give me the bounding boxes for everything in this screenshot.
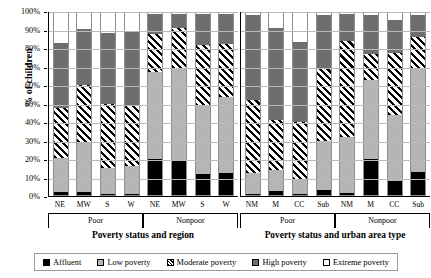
x-axis-tick-label: NM (240, 198, 264, 212)
x-axis-group-label: Poor (240, 214, 335, 228)
bar-segment-s0 (269, 191, 283, 195)
bar-segment-s3 (269, 28, 283, 120)
gridline (49, 105, 238, 106)
y-axis-tick-mark (44, 12, 47, 13)
bar-segment-s0 (219, 173, 233, 195)
gridline (241, 179, 430, 180)
bar-segment-s3 (77, 29, 91, 85)
bar-segment-s0 (317, 190, 331, 195)
x-axis-tick-label: MW (72, 198, 96, 212)
y-axis-tick-label: 10% (6, 175, 40, 183)
y-axis-tick-label: 80% (6, 45, 40, 53)
legend-item[interactable]: Affluent (43, 258, 81, 267)
bar-segment-s3 (196, 14, 210, 45)
gridline (241, 12, 430, 13)
bar-segment-s1 (364, 80, 378, 158)
x-axis-group-label: Nonpoor (335, 214, 430, 228)
y-axis-tick-label: 30% (6, 138, 40, 146)
y-axis-tick-mark (44, 197, 47, 198)
legend-swatch-icon (43, 259, 50, 266)
legend-swatch-icon (323, 259, 330, 266)
legend-item[interactable]: Moderate poverty (167, 258, 237, 267)
y-axis-tick-mark (44, 179, 47, 180)
x-axis-title: Poverty status and region (48, 230, 238, 240)
bar-segment-s2 (411, 37, 425, 69)
x-axis-group-row: PoorNonpoor (48, 213, 238, 228)
bar-segment-s1 (411, 69, 425, 173)
legend-item[interactable]: Low poverty (97, 258, 150, 267)
bar-segment-s0 (411, 172, 425, 195)
bar-segment-s1 (172, 68, 186, 160)
bar-segment-s2 (246, 100, 260, 173)
x-axis-title: Poverty status and urban area type (240, 230, 430, 240)
bar-segment-s0 (388, 181, 402, 195)
bar-segment-s2 (293, 122, 307, 180)
gridline (49, 179, 238, 180)
x-axis-tick-label: S (96, 198, 120, 212)
bar-segment-s2 (54, 108, 68, 158)
bar-segment-s3 (219, 14, 233, 44)
x-axis-tick-label: M (264, 198, 288, 212)
legend-swatch-icon (97, 259, 104, 266)
bar-segment-s4 (54, 13, 68, 43)
y-axis-tick-label: 0% (6, 193, 40, 201)
bar-segment-s1 (77, 142, 91, 192)
legend-item[interactable]: Extreme poverty (323, 258, 389, 267)
legend-label: Low poverty (107, 258, 150, 267)
bar-segment-s0 (101, 194, 115, 195)
gridline (241, 160, 430, 161)
bar-segment-s0 (172, 160, 186, 195)
y-axis-tick-label: 20% (6, 156, 40, 164)
gridline (49, 31, 238, 32)
bar-segment-s0 (246, 194, 260, 195)
bar-segment-s0 (196, 174, 210, 195)
x-axis-tick-label: W (214, 198, 238, 212)
x-axis-tick-label: CC (383, 198, 407, 212)
bar-segment-s2 (219, 44, 233, 97)
bar-segment-s0 (54, 192, 68, 195)
gridline (49, 160, 238, 161)
x-axis-group-label: Nonpoor (143, 214, 238, 228)
bar-segment-s1 (219, 97, 233, 173)
legend-label: Affluent (53, 258, 81, 267)
bar-segment-s1 (196, 106, 210, 174)
y-axis-tick-label: 60% (6, 82, 40, 90)
bar-segment-s1 (54, 158, 68, 193)
x-axis-tick-label: M (359, 198, 383, 212)
x-axis-tick-label: NE (143, 198, 167, 212)
y-axis-tick-label: 40% (6, 119, 40, 127)
gridline (49, 49, 238, 50)
gridline (241, 49, 430, 50)
bar-segment-s4 (77, 13, 91, 28)
x-axis-tick-row: NMMCCSubNMMCCSub (240, 198, 430, 212)
bar-segment-s4 (388, 13, 402, 20)
x-axis-tick-label: NE (48, 198, 72, 212)
x-axis-tick-label: S (191, 198, 215, 212)
gridline (49, 68, 238, 69)
bar-segment-s0 (364, 159, 378, 195)
bar-segment-s4 (269, 13, 283, 28)
chart-panel-region (48, 12, 238, 197)
x-axis-tick-label: MW (167, 198, 191, 212)
y-axis-tick-mark (44, 31, 47, 32)
y-axis-tick-mark (44, 160, 47, 161)
legend-label: Extreme poverty (333, 258, 389, 267)
bar-segment-s0 (293, 194, 307, 195)
x-axis-tick-label: Sub (406, 198, 430, 212)
bar-segment-s2 (101, 104, 115, 168)
gridline (49, 12, 238, 13)
bar-segment-s3 (411, 15, 425, 37)
bar-segment-s1 (340, 137, 354, 193)
bar-segment-s1 (101, 168, 115, 194)
bar-segment-s3 (317, 15, 331, 70)
bar-segment-s3 (101, 33, 115, 104)
legend-item[interactable]: High poverty (252, 258, 306, 267)
y-axis-tick-label: 50% (6, 101, 40, 109)
bar-segment-s1 (293, 180, 307, 194)
x-axis-group-label: Poor (48, 214, 143, 228)
bar-segment-s0 (77, 192, 91, 195)
stacked-bar-chart: % of children 0%10%20%30%40%50%60%70%80%… (0, 0, 431, 278)
bar-segment-s2 (269, 120, 283, 170)
bar-segment-s1 (125, 166, 139, 194)
bar-segment-s2 (148, 34, 162, 72)
